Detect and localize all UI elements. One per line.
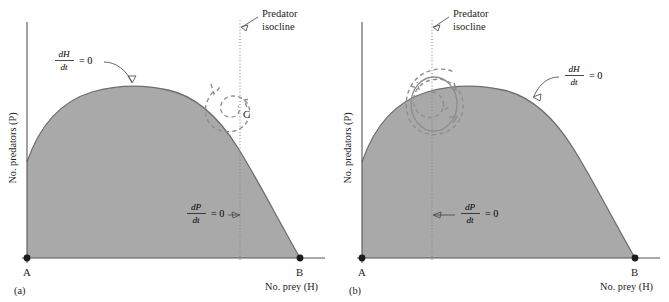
node-b-label: B bbox=[296, 266, 303, 278]
panel-caption-b: (b) bbox=[349, 285, 361, 297]
node-a-dot bbox=[24, 255, 31, 262]
y-axis-label-b: No. predators (P) bbox=[342, 112, 354, 183]
predator-isocline-leader-a bbox=[241, 17, 258, 31]
node-b-label: B bbox=[631, 266, 638, 278]
x-axis-label-b: No. prey (H) bbox=[600, 281, 653, 293]
predator-isocline-den-a: dt bbox=[192, 215, 200, 225]
prey-isocline-eq-b: = 0 bbox=[589, 70, 602, 81]
panel-caption-a: (a) bbox=[14, 285, 25, 297]
node-a-dot bbox=[359, 255, 366, 262]
prey-isocline-den-b: dt bbox=[570, 77, 578, 87]
prey-growth-region-b bbox=[362, 86, 635, 258]
prey-isocline-leader-b bbox=[533, 77, 559, 101]
node-a-label: A bbox=[23, 266, 31, 278]
predator-isocline-callout-line2-b: isocline bbox=[453, 21, 486, 32]
node-b-dot bbox=[632, 255, 639, 262]
predator-isocline-callout-line2-a: isocline bbox=[262, 21, 295, 32]
prey-isocline-num-b: dH bbox=[568, 64, 581, 74]
panel-b-plot: A B No. predators (P) No. prey (H) (b) P… bbox=[335, 0, 669, 302]
y-axis-label-a: No. predators (P) bbox=[7, 112, 19, 183]
panel-b: A B No. predators (P) No. prey (H) (b) P… bbox=[335, 0, 669, 302]
predator-isocline-callout-line1-a: Predator bbox=[262, 8, 298, 19]
predator-isocline-den-b: dt bbox=[466, 215, 474, 225]
predator-isocline-eq-b: = 0 bbox=[485, 208, 498, 219]
predator-isocline-callout-line1-b: Predator bbox=[453, 8, 489, 19]
x-axis-label-a: No. prey (H) bbox=[265, 281, 318, 293]
prey-isocline-label-a: dH dt = 0 bbox=[55, 49, 92, 72]
prey-isocline-den-a: dt bbox=[60, 62, 68, 72]
prey-isocline-eq-a: = 0 bbox=[79, 55, 92, 66]
prey-isocline-label-b: dH dt = 0 bbox=[565, 64, 602, 87]
predator-isocline-leader-b bbox=[433, 17, 449, 31]
node-b-dot bbox=[297, 255, 304, 262]
prey-isocline-num-a: dH bbox=[58, 49, 71, 59]
prey-isocline-leader-a bbox=[104, 62, 136, 83]
predator-isocline-num-b: dP bbox=[465, 202, 476, 212]
predator-isocline-num-a: dP bbox=[191, 202, 202, 212]
prey-growth-region-a bbox=[27, 86, 300, 258]
predator-prey-isocline-figure: C A B No. predators (P) No. prey (H) (a)… bbox=[0, 0, 669, 302]
node-a-label: A bbox=[358, 266, 366, 278]
predator-isocline-eq-a: = 0 bbox=[211, 208, 224, 219]
panel-a-plot: C A B No. predators (P) No. prey (H) (a)… bbox=[0, 0, 334, 302]
equilibrium-label-c: C bbox=[243, 108, 250, 120]
panel-a: C A B No. predators (P) No. prey (H) (a)… bbox=[0, 0, 334, 302]
